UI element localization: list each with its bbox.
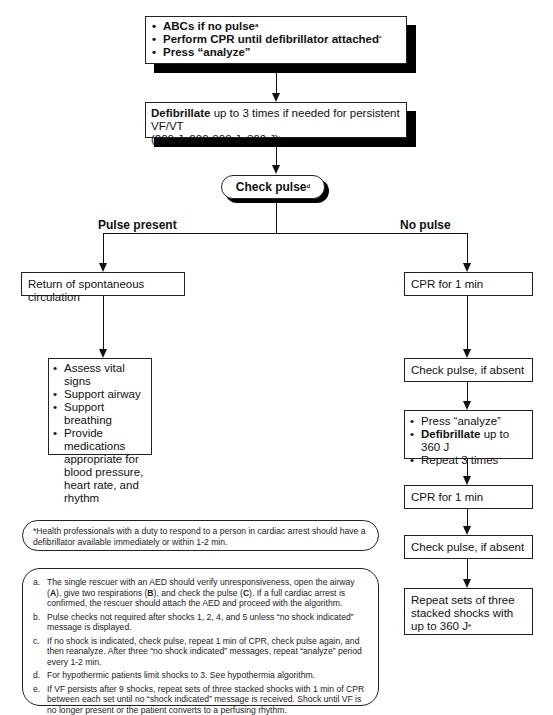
post-resuscitation-care-box: Assess vital signs Support airway Suppor… bbox=[48, 358, 152, 455]
arrow-down-icon bbox=[463, 401, 471, 410]
care-item: Provide medications appropriate for bloo… bbox=[53, 427, 147, 505]
initial-action-analyze: Press “analyze” bbox=[152, 46, 400, 59]
footnote-d: d. For hypothermic patients limit shocks… bbox=[33, 670, 368, 681]
initial-action-abcs: ABCs if no pulsea bbox=[152, 20, 400, 33]
defibrillate-box: Defibrillate up to 3 times if needed for… bbox=[145, 102, 407, 138]
defibrillator-availability-note: *Health professionals with a duty to res… bbox=[22, 520, 379, 551]
arrow-down-icon bbox=[463, 349, 471, 358]
cpr-1-min-box: CPR for 1 min bbox=[404, 272, 533, 296]
connector-line bbox=[467, 382, 468, 402]
arrow-down-icon bbox=[99, 263, 107, 272]
check-pulse-box-2: Check pulse, if absent bbox=[404, 535, 533, 559]
arrow-down-icon bbox=[463, 476, 471, 485]
footnote-b: b. Pulse checks not required after shock… bbox=[33, 612, 368, 633]
arrow-down-icon bbox=[463, 579, 471, 588]
no-pulse-label: No pulse bbox=[400, 218, 451, 232]
care-item: Support breathing bbox=[53, 401, 147, 427]
care-item: Support airway bbox=[53, 388, 147, 401]
connector-line bbox=[467, 296, 468, 350]
footnote-e: e. If VF persists after 9 shocks, repeat… bbox=[33, 684, 368, 715]
check-pulse-box-1: Check pulse, if absent bbox=[404, 358, 533, 382]
initial-actions-box: ABCs if no pulsea Perform CPR until defi… bbox=[145, 16, 407, 64]
care-item: Assess vital signs bbox=[53, 362, 147, 388]
analyze-shock-box: Press “analyze” Defibrillate up to 360 J… bbox=[404, 410, 533, 459]
branch-line bbox=[103, 233, 468, 234]
connector-line bbox=[103, 296, 104, 350]
initial-action-cpr: Perform CPR until defibrillator attached… bbox=[152, 33, 400, 46]
repeat-shocks-box: Repeat sets of three stacked shocks with… bbox=[404, 588, 533, 635]
shock-item: Defibrillate up to 360 J bbox=[410, 428, 527, 454]
footnote-c: c. If no shock is indicated, check pulse… bbox=[33, 636, 368, 668]
arrow-down-icon bbox=[272, 93, 280, 102]
connector-line bbox=[103, 233, 104, 265]
rosc-box: Return of spontaneous circulation bbox=[21, 272, 185, 296]
arrow-down-icon bbox=[99, 349, 107, 358]
connector-line bbox=[276, 203, 277, 234]
connector-line bbox=[276, 147, 277, 167]
cpr-1-min-box-2: CPR for 1 min bbox=[404, 485, 533, 509]
footnote-a: a. The single rescuer with an AED should… bbox=[33, 577, 368, 609]
connector-line bbox=[467, 509, 468, 527]
arrow-down-icon bbox=[272, 165, 280, 174]
shock-item: Press “analyze” bbox=[410, 415, 527, 428]
arrow-down-icon bbox=[463, 526, 471, 535]
footnotes-box: a. The single rescuer with an AED should… bbox=[22, 568, 379, 706]
connector-line bbox=[276, 73, 277, 95]
pulse-present-label: Pulse present bbox=[98, 218, 177, 232]
arrow-down-icon bbox=[463, 263, 471, 272]
connector-line bbox=[467, 233, 468, 265]
connector-line bbox=[467, 459, 468, 477]
check-pulse-decision: Check pulsed bbox=[221, 175, 325, 199]
shock-item: Repeat 3 times bbox=[410, 454, 527, 467]
connector-line bbox=[467, 559, 468, 580]
